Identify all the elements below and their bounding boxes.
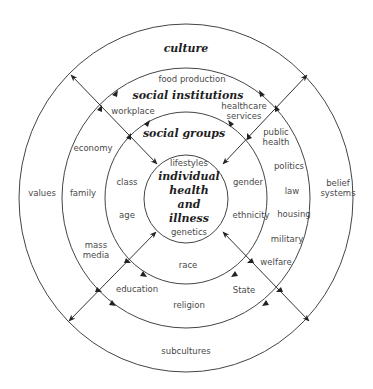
title-culture: culture	[164, 42, 209, 55]
label-politics: politics	[274, 161, 304, 171]
center-title: individual health and illness	[158, 170, 220, 226]
label-housing: housing	[277, 209, 311, 219]
label-health: health	[263, 137, 290, 147]
label-belief: belief	[320, 178, 355, 188]
center-line-4: illness	[158, 212, 220, 226]
label-mass: mass	[83, 240, 109, 250]
arrow-bottom-right	[223, 232, 309, 321]
label-race: race	[179, 260, 198, 270]
label-belief-systems: belief systems	[320, 178, 355, 198]
label-subcultures: subcultures	[161, 346, 210, 356]
label-lifestyles: lifestyles	[170, 158, 208, 168]
label-workplace: workplace	[111, 106, 154, 116]
center-line-2: health	[158, 184, 220, 198]
label-law: law	[285, 186, 300, 196]
label-religion: religion	[173, 300, 205, 310]
label-public: public	[263, 127, 290, 137]
label-military: military	[271, 234, 303, 244]
label-economy: economy	[73, 143, 112, 153]
label-mass-media: mass media	[83, 240, 109, 260]
title-social-institutions: social institutions	[132, 89, 243, 102]
label-systems: systems	[320, 188, 355, 198]
label-healthcare: healthcare	[221, 101, 266, 111]
label-class: class	[116, 177, 137, 187]
label-welfare: welfare	[260, 257, 291, 267]
label-genetics: genetics	[171, 227, 207, 237]
label-public-health: public health	[263, 127, 290, 147]
label-healthcare-services: healthcare services	[221, 101, 266, 121]
label-gender: gender	[233, 177, 263, 187]
label-education: education	[116, 284, 158, 294]
label-state: State	[233, 285, 256, 295]
label-food-production: food production	[158, 74, 225, 84]
center-line-3: and	[158, 198, 220, 212]
label-services: services	[221, 111, 266, 121]
center-line-1: individual	[158, 170, 220, 184]
health-determinants-diagram: culture values belief systems subculture…	[0, 0, 373, 389]
label-age: age	[119, 210, 135, 220]
label-ethnicity: ethnicity	[232, 210, 269, 220]
label-media: media	[83, 250, 109, 260]
label-family: family	[70, 188, 96, 198]
label-values: values	[28, 188, 56, 198]
title-social-groups: social groups	[143, 127, 225, 140]
